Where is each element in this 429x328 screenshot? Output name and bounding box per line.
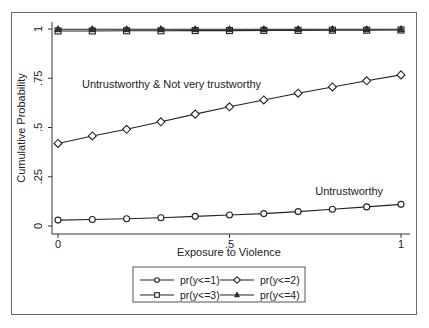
circle-marker (329, 206, 335, 212)
circle-marker (124, 216, 130, 222)
diamond-marker (294, 89, 302, 97)
circle-marker (398, 201, 404, 207)
diamond-marker (123, 125, 131, 133)
circle-marker (89, 216, 95, 222)
annotation-label: Untrustworthy & Not very trustworthy (82, 78, 262, 90)
legend-label: pr(y<=1) (180, 274, 220, 286)
circle-marker (158, 215, 164, 221)
circle-marker (227, 212, 233, 218)
diamond-marker (88, 132, 96, 140)
y-tick-label: .5 (32, 123, 44, 132)
legend-label: pr(y<=3) (180, 289, 220, 301)
diamond-marker (397, 71, 405, 79)
circle-marker (364, 204, 370, 210)
diamond-marker (54, 139, 62, 147)
y-tick-label: .25 (32, 169, 44, 184)
x-tick-label: 1 (398, 238, 404, 250)
legend-label: pr(y<=4) (260, 289, 300, 301)
y-axis-label: Cumulative Probability (15, 73, 27, 183)
y-tick-label: .75 (32, 71, 44, 86)
series-circle (55, 201, 404, 223)
circle-marker (295, 209, 301, 215)
y-tick-label: 0 (32, 223, 44, 229)
diamond-marker (260, 96, 268, 104)
legend-label: pr(y<=2) (260, 274, 300, 286)
y-tick-label: 1 (32, 26, 44, 32)
diamond-marker (157, 118, 165, 126)
line-chart: 0.25.5.751 0.51 Cumulative Probability E… (0, 0, 429, 328)
x-tick-label: 0 (55, 238, 61, 250)
circle-marker (261, 211, 267, 217)
circle-marker (192, 213, 198, 219)
diamond-marker (191, 110, 199, 118)
diamond-marker (226, 103, 234, 111)
annotations: Untrustworthy & Not very trustworthyUntr… (82, 78, 384, 197)
diamond-marker (363, 77, 371, 85)
circle-marker (55, 217, 61, 223)
square-marker (155, 293, 160, 298)
y-ticks: 0.25.5.751 (32, 26, 52, 229)
circle-marker (155, 278, 160, 283)
annotation-label: Untrustworthy (315, 185, 383, 197)
x-axis-label: Exposure to Violence (177, 246, 281, 258)
diamond-marker (328, 83, 336, 91)
